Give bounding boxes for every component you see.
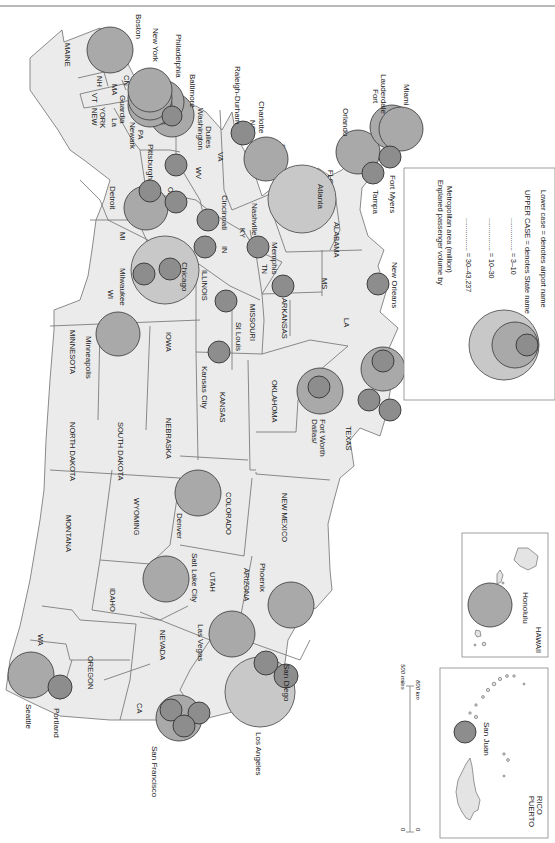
state-label-wi: WI <box>106 290 115 299</box>
state-label-oklahoma: OKLAHOMA <box>270 380 279 423</box>
state-label-illinois: ILLINOIS <box>200 270 209 301</box>
label-stlouis: St Louis <box>234 322 243 351</box>
label-tampa: Tampa <box>371 190 380 215</box>
state-label-tn: TN <box>260 264 269 274</box>
legend-title-2: Metropolitan area (million) <box>445 186 454 273</box>
pr-islet-11 <box>503 753 505 755</box>
pr-islet-8 <box>506 675 509 678</box>
bubble-phoenix <box>268 582 314 628</box>
bubble-stlouis <box>215 290 237 312</box>
legend-note-2: Lower case = denotes airport name <box>539 190 548 308</box>
bubble-saltlake <box>143 556 189 602</box>
state-label-missouri: MISSOURI <box>248 304 257 341</box>
state-label-utah: UTAH <box>208 572 217 592</box>
label-chicago: Chicago <box>180 262 189 292</box>
label-laguardia-1: La <box>110 118 119 127</box>
label-portland: Portland <box>52 708 61 738</box>
legend-note-1: UPPER CASE = denotes State name <box>523 190 532 314</box>
legend: Enplaned passenger volume by Metropolita… <box>404 168 555 400</box>
label-pittsburgh: Pittsburgh <box>146 144 155 180</box>
label-detroit: Detroit <box>108 186 117 210</box>
label-lasvegas: Las Vegas <box>196 624 205 661</box>
label-newark: Newark <box>128 122 137 150</box>
state-label-maine: MAINE <box>63 43 72 67</box>
bubble-raleigh <box>231 121 255 145</box>
bubble-honolulu <box>468 583 512 627</box>
state-label-texas: TEXAS <box>344 426 353 451</box>
label-baltimore: Baltimore <box>188 74 197 108</box>
scale-bar: 500 miles 800 km 0 0 <box>400 664 421 832</box>
pr-islet-5 <box>486 688 489 691</box>
state-label-southdakota: SOUTH DAKOTA <box>116 422 125 481</box>
state-label-arkansas: ARKANSAS <box>280 298 289 339</box>
bubble-chicago-ohare <box>159 258 181 280</box>
label-fortmyers: Fort Myers <box>388 175 397 213</box>
state-label-alabama: ALABAMA <box>332 222 341 257</box>
state-label-wv: WV <box>194 167 203 179</box>
state-label-mi: MI <box>118 232 127 240</box>
state-label-iowa: IOWA <box>164 332 173 352</box>
bubble-pittsburgh <box>165 154 187 176</box>
state-label-nevada: NEVADA <box>158 630 167 660</box>
legend-row-2: ................. = 10–30 <box>488 218 495 279</box>
label-sanjuan: San Juan <box>482 722 491 756</box>
bubble-oh <box>165 191 187 213</box>
state-label-oregon: OREGON <box>86 656 95 689</box>
pr-islet-3 <box>475 704 477 706</box>
state-label-wa: WA <box>36 634 45 646</box>
state-label-idaho: IDAHO <box>108 588 117 612</box>
label-cincinnati: Cincinnati <box>220 195 229 230</box>
bubble-seattle <box>8 652 54 698</box>
legend-circle-small <box>516 334 538 356</box>
pr-islet-13 <box>503 775 505 777</box>
label-philadelphia: Philadelphia <box>174 34 183 78</box>
pr-islet-10 <box>523 683 525 685</box>
label-sanfrancisco: San Francisco <box>150 746 159 798</box>
scale-km-max: 800 km <box>415 680 421 700</box>
hawaii-kauai <box>475 630 481 637</box>
label-saltlake: Salt Lake City <box>190 553 199 602</box>
legend-row-3: ................. = 3–10 <box>510 218 517 275</box>
bubble-cincinnati <box>197 209 219 231</box>
pr-islet-7 <box>498 677 501 680</box>
bubble-lasvegas <box>209 611 255 657</box>
bubble-memphis <box>272 275 294 297</box>
bubble-boston <box>87 27 133 73</box>
state-label-minnesota: MINNESOTA <box>68 330 77 374</box>
label-hawaii: HAWAII <box>534 627 543 653</box>
label-washington: Washington <box>196 108 205 150</box>
puerto-rico-inset: San Juan PUERTO RICO <box>440 668 548 838</box>
state-label-newyork-2: YORK <box>98 107 107 128</box>
bubble-tampa <box>362 162 384 184</box>
label-fort: Fort <box>371 89 380 104</box>
state-label-newmexico: NEW MEXICO <box>280 493 289 542</box>
label-newyork: New York <box>151 28 160 63</box>
state-label-kansas: KANSAS <box>218 392 227 422</box>
label-raleigh: Raleigh-Durham <box>233 66 242 125</box>
label-puertorico-1: PUERTO <box>527 796 536 827</box>
pr-islet-12 <box>507 759 510 762</box>
label-denver: Denver <box>175 513 184 539</box>
hawaii-islet-2 <box>502 582 504 584</box>
label-dallas-1: Dallas/ <box>310 419 319 444</box>
state-label-northdakota: NORTH DAKOTA <box>68 422 77 481</box>
scale-miles-max: 500 miles <box>400 664 406 690</box>
state-label-nh: NH <box>95 76 104 87</box>
pr-islet-2 <box>469 712 471 714</box>
label-miami: Miami <box>402 84 411 106</box>
state-label-ms: MS <box>320 278 329 289</box>
state-label-la: LA <box>342 318 351 327</box>
label-losangeles: Los Angeles <box>254 732 263 776</box>
bubble-houston-2 <box>372 350 394 372</box>
bubble-sf-3 <box>173 715 195 737</box>
label-minneapolis: Minneapolis <box>84 336 93 379</box>
pr-islet-1 <box>474 715 477 718</box>
bubble-in <box>194 236 216 258</box>
label-boston: Boston <box>134 14 143 39</box>
pr-islet-6 <box>492 682 496 686</box>
scale-km-zero: 0 <box>415 828 421 832</box>
bubble-houston-3 <box>358 389 380 411</box>
state-label-colorado: COLORADO <box>224 492 233 535</box>
label-milwaukee: Milwaukee <box>118 268 127 306</box>
bubble-nashville <box>247 236 269 258</box>
